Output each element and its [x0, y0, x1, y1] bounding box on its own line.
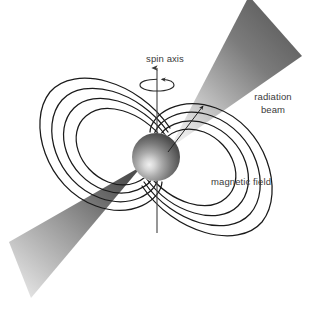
- neutron-star-sphere: [132, 133, 180, 181]
- pulsar-diagram: spin axis radiation beam magnetic field: [0, 0, 320, 311]
- label-magnetic-field: magnetic field: [211, 176, 271, 187]
- label-spin-axis: spin axis: [146, 53, 184, 64]
- label-radiation-beam-line1: radiation: [254, 91, 291, 102]
- label-radiation-beam-line2: beam: [261, 104, 285, 115]
